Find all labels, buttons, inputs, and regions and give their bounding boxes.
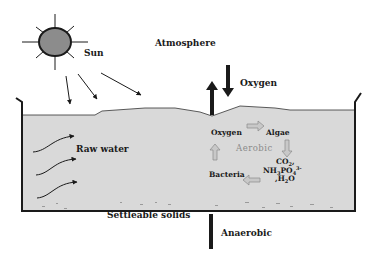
sun-label: Sun [84, 48, 104, 58]
atmosphere-label: Atmosphere [154, 38, 216, 48]
anaerobic-line [209, 214, 213, 249]
cycle-bacteria-label: Bacteria [209, 170, 245, 179]
sun-icon [22, 14, 88, 70]
pond-diagram: Sun Atmosphere Oxygen Raw water Oxygen A… [0, 0, 375, 265]
aerobic-label: Aerobic [235, 143, 273, 153]
cycle-oxygen-label: Oxygen [211, 128, 242, 137]
anaerobic-label: Anaerobic [220, 228, 273, 238]
sunlight-arrows [66, 73, 141, 104]
pond-water [22, 106, 355, 211]
settleable-solids-label: Settleable solids [107, 210, 190, 220]
raw-water-label: Raw water [76, 144, 129, 154]
oxygen-label-top: Oxygen [240, 78, 277, 88]
oxygen-exchange-arrows [206, 65, 234, 115]
cycle-algae-label: Algae [265, 128, 290, 137]
